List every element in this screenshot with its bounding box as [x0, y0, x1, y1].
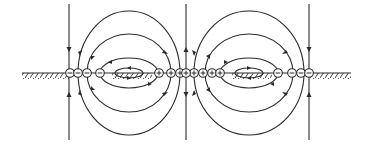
- negative-charge-icon: [96, 69, 105, 78]
- negative-charge-icon: [66, 69, 75, 78]
- arrow-down-icon: [307, 47, 312, 52]
- negative-charge-icon: [74, 69, 83, 78]
- negative-charge-icon: [274, 69, 283, 78]
- negative-charge-icon: [297, 69, 306, 78]
- arrow-down-icon: [184, 92, 189, 97]
- arrow-icon: [78, 90, 82, 96]
- arrow-icon: [91, 86, 95, 90]
- positive-charge-icon: [190, 69, 199, 78]
- ground-hatch-left: [22, 73, 69, 79]
- positive-charge-icon: [208, 69, 217, 78]
- arrow-icon: [247, 66, 251, 70]
- arrow-up-icon: [307, 92, 312, 97]
- positive-charge-icon: [216, 69, 225, 78]
- charges: [66, 69, 314, 78]
- field-line-diagram: [0, 0, 373, 149]
- arrow-icon: [192, 90, 196, 96]
- positive-charge-icon: [182, 69, 191, 78]
- arrow-icon: [78, 50, 82, 56]
- ground-hatch-right: [310, 73, 351, 79]
- positive-charge-icon: [199, 69, 208, 78]
- arrow-up-icon: [67, 92, 72, 97]
- arrow-icon: [108, 60, 112, 64]
- arrow-icon: [192, 50, 196, 56]
- positive-charge-icon: [155, 69, 164, 78]
- negative-charge-icon: [288, 69, 297, 78]
- arrow-down-icon: [67, 47, 72, 52]
- positive-charge-icon: [167, 69, 176, 78]
- negative-charge-icon: [83, 69, 92, 78]
- arrow-icon: [127, 66, 131, 70]
- arrow-up-icon: [184, 47, 189, 52]
- negative-charge-icon: [305, 69, 314, 78]
- arrow-icon: [91, 56, 95, 60]
